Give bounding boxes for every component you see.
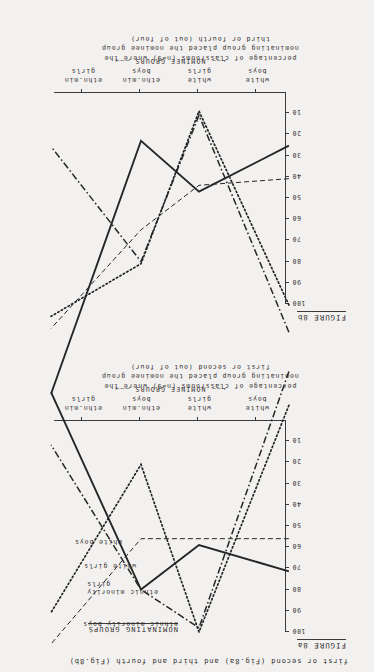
legend-item-line: ethnic minority boys	[83, 620, 178, 628]
legend-item-line: white girls	[84, 562, 136, 570]
figure-label: FIGURE 8b	[297, 311, 346, 322]
page-running-caption: first or second (Fig.8a) and third and f…	[69, 657, 348, 666]
y-axis-tick-label: 100	[292, 627, 305, 635]
y-axis-tick-label: 30	[292, 479, 301, 487]
y-axis-tick-label: 70	[292, 563, 301, 571]
series-layer	[0, 32, 286, 304]
y-axis-tick-label: 80	[292, 257, 301, 265]
y-axis-tick-label: 80	[292, 585, 301, 593]
y-axis-tick-label: 90	[292, 606, 301, 614]
y-axis-tick-label: 60	[292, 214, 301, 222]
legend-item-line: ethnic minority	[86, 588, 158, 596]
y-axis-tick-label: 40	[292, 500, 301, 508]
y-axis-tick-label: 50	[292, 521, 301, 529]
y-axis-tick-label: 100	[292, 299, 305, 307]
legend-item: ethnic minoritygirls	[86, 579, 158, 596]
series-line-white-boys	[51, 392, 289, 589]
series-line-white-girls	[51, 111, 289, 316]
legend-item: ethnic minority boys	[83, 620, 178, 628]
legend-item-line: white boys	[74, 538, 122, 546]
legend-item: white girls	[84, 562, 136, 570]
series-line-ethnic-minority-girls	[51, 179, 289, 329]
scanned-page-rotated: first or second (Fig.8a) and third and f…	[0, 0, 374, 672]
y-axis-tick-label: 30	[292, 151, 301, 159]
series-line-ethnic-minority-boys	[51, 115, 289, 332]
y-axis-tick-label: 70	[292, 235, 301, 243]
y-axis-tick-label: 50	[292, 193, 301, 201]
y-axis-tick-label: 60	[292, 542, 301, 550]
page-sheet: first or second (Fig.8a) and third and f…	[0, 0, 374, 672]
series-line-white-girls	[51, 405, 289, 632]
y-axis-tick-label: 40	[292, 172, 301, 180]
y-axis-tick-label: 90	[292, 278, 301, 286]
figure-8b: FIGURE 8bpercentage of classrooms (n=9) …	[0, 0, 374, 330]
y-axis-tick-label: 10	[292, 436, 301, 444]
legend-item-line: girls	[86, 579, 158, 587]
y-axis-tick-label: 20	[292, 129, 301, 137]
legend-item: white boys	[74, 538, 122, 546]
figure-label: FIGURE 8a	[297, 639, 346, 650]
y-axis-tick-label: 10	[292, 108, 301, 116]
y-axis-tick-label: 20	[292, 457, 301, 465]
